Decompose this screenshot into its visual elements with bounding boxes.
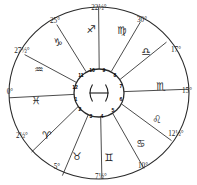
cusp-spoke-9 — [111, 22, 140, 71]
cusp-spoke-10 — [99, 7, 100, 69]
cusp-spoke-5 — [113, 113, 144, 168]
cusp-spoke-11 — [57, 25, 86, 72]
cusp-spoke-4 — [101, 117, 102, 179]
wheel-graphic — [0, 0, 197, 185]
cusp-spoke-7 — [124, 89, 189, 91]
cusp-spoke-12 — [25, 55, 76, 83]
cusp-spoke-6 — [121, 104, 171, 141]
astrology-chart-wheel: 0° 2½° 5° 7½° 10° 12½° 15° 17° 30° 22½° … — [0, 0, 197, 185]
cusp-spoke-1 — [9, 94, 74, 97]
cusp-spoke-3 — [62, 114, 88, 175]
cusp-spoke-8 — [120, 42, 166, 79]
cusp-spoke-2 — [32, 107, 79, 152]
